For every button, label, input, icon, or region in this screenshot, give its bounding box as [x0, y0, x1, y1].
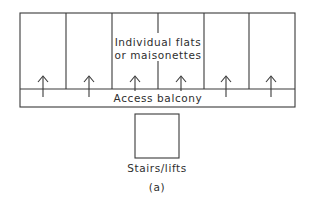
entry-arrow-icon: [221, 76, 231, 97]
stairs-label: Stairs/lifts: [127, 163, 187, 174]
units-label-line2: or maisonettes: [114, 50, 201, 61]
entry-arrow-icon: [84, 76, 94, 97]
entry-arrow-icon: [266, 76, 276, 97]
figure-caption: (a): [149, 182, 165, 193]
units-label-line1: Individual flats: [115, 37, 202, 48]
balcony-label: Access balcony: [114, 93, 203, 104]
entry-arrow-icon: [38, 76, 48, 97]
access-balcony-plan-diagram: [0, 0, 312, 210]
stairs-lifts-box: [135, 114, 179, 158]
